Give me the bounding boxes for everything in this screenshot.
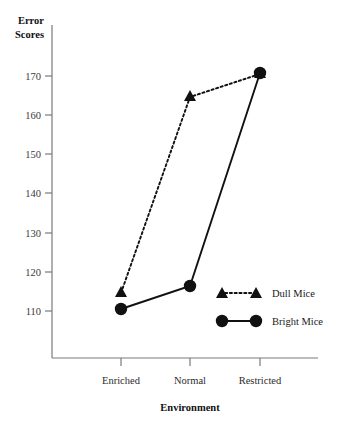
y-tick-label-130: 130 [25,228,41,239]
chart-legend: Dull Mice Bright Mice [216,287,324,327]
x-tick-label-restricted: Restricted [239,375,282,386]
y-tick-label-160: 160 [25,110,41,121]
series-bright-mice-line [121,73,260,309]
x-tick-label-normal: Normal [174,375,206,386]
legend-circle-icon-right [250,315,262,327]
data-point-dull-enriched [115,286,127,297]
x-tick-label-enriched: Enriched [102,375,141,386]
legend-item-dull-mice: Dull Mice [216,287,315,299]
series-dull-mice-line [121,74,260,293]
series-dull-mice [115,67,266,297]
data-point-bright-enriched [115,303,127,315]
y-axis-ticks [45,76,52,311]
y-tick-label-140: 140 [25,188,41,199]
y-axis-title-line2: Scores [15,29,44,40]
data-point-bright-restricted [254,67,266,79]
line-chart: Error Scores 170 160 150 140 130 120 110 [0,0,346,428]
y-axis-title-line1: Error [18,15,44,26]
y-tick-label-150: 150 [25,149,41,160]
legend-label-dull-mice: Dull Mice [272,288,315,299]
data-point-bright-normal [184,280,196,292]
series-bright-mice [115,67,266,315]
y-tick-label-110: 110 [26,306,41,317]
y-tick-label-120: 120 [25,267,41,278]
x-axis-title: Environment [160,402,220,413]
legend-item-bright-mice: Bright Mice [216,315,324,327]
legend-label-bright-mice: Bright Mice [272,316,323,327]
legend-circle-icon-left [216,315,228,327]
chart-canvas: Error Scores 170 160 150 140 130 120 110 [0,0,346,428]
x-axis-ticks [121,358,260,366]
y-tick-label-170: 170 [25,71,41,82]
